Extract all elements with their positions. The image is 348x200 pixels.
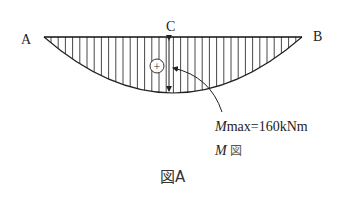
positive-sign: + (154, 60, 161, 74)
label-c: C (166, 19, 175, 34)
figure-caption: 図A (160, 168, 186, 186)
label-b: B (313, 29, 322, 44)
label-a: A (21, 32, 32, 47)
m-diagram-label: M図 (214, 143, 242, 158)
mmax-annotation: Mmax=160kNm (214, 119, 308, 134)
moment-diagram: + A B C Mmax=160kNm M図 図A (0, 0, 348, 200)
